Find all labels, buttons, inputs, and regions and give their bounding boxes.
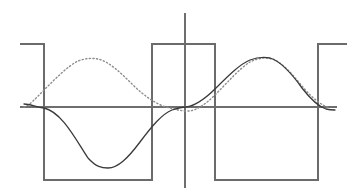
shifted-sine-dotted-curve — [24, 58, 330, 111]
waveform-figure — [0, 0, 354, 195]
plot-canvas — [0, 0, 354, 195]
square-wave — [20, 44, 347, 180]
fundamental-sine-solid-curve — [24, 57, 335, 168]
